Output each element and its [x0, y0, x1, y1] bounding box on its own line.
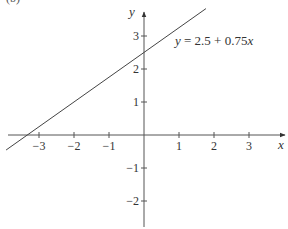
chart-canvas: −3−2−1123−2−1123xyy = 2.5 + 0.75x — [0, 0, 288, 229]
y-axis-label: y — [127, 4, 135, 19]
series-lines — [6, 9, 206, 150]
x-tick-label: −3 — [33, 139, 46, 153]
series-line — [6, 9, 206, 150]
y-tick-label: 3 — [133, 29, 139, 43]
equation-label: y = 2.5 + 0.75x — [173, 33, 253, 48]
x-tick-label: −2 — [68, 139, 81, 153]
y-tick-label: 2 — [133, 62, 139, 76]
labels: −3−2−1123−2−1123xyy = 2.5 + 0.75x — [33, 4, 285, 208]
x-tick-label: −1 — [103, 139, 116, 153]
y-tick-label: −2 — [126, 194, 139, 208]
x-tick-label: 2 — [211, 139, 217, 153]
x-axis-label: x — [277, 137, 284, 152]
y-tick-label: −1 — [126, 161, 139, 175]
x-tick-label: 3 — [246, 139, 252, 153]
x-tick-label: 1 — [176, 139, 182, 153]
y-tick-label: 1 — [133, 95, 139, 109]
